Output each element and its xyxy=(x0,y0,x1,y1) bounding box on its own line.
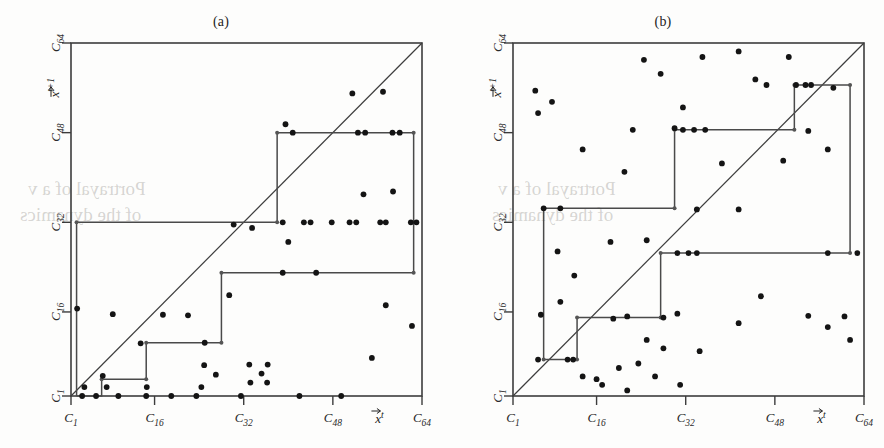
staircase-node xyxy=(659,251,663,255)
staircase-node xyxy=(144,377,148,381)
data-point xyxy=(752,77,758,83)
data-point xyxy=(226,292,232,298)
data-point xyxy=(238,393,244,399)
data-point xyxy=(736,207,742,213)
data-point xyxy=(805,128,811,134)
data-point xyxy=(185,312,191,318)
data-point xyxy=(557,205,563,211)
data-point xyxy=(383,219,389,225)
y-axis-tick-label: C64 xyxy=(490,34,508,52)
x-axis-tick-label: C1 xyxy=(64,410,77,428)
data-point xyxy=(213,372,219,378)
data-point xyxy=(570,357,576,363)
data-point xyxy=(641,57,647,63)
data-point xyxy=(414,219,420,225)
figure-container: Portrayal of a v of the dynamics Portray… xyxy=(0,0,884,448)
x-axis-tick-label: C64 xyxy=(855,410,873,428)
data-point xyxy=(780,158,786,164)
data-point xyxy=(355,130,361,136)
data-point xyxy=(580,147,586,153)
data-point xyxy=(680,105,686,111)
data-point xyxy=(674,311,680,317)
data-point xyxy=(624,387,630,393)
y-axis-title: xt+1 xyxy=(46,78,62,99)
data-point xyxy=(764,82,770,88)
data-point xyxy=(644,337,650,343)
data-point xyxy=(369,355,375,361)
staircase-cycle-path xyxy=(77,133,414,396)
y-axis-tick-label: C48 xyxy=(490,123,508,141)
staircase-node xyxy=(673,206,677,210)
data-point xyxy=(786,54,792,60)
data-point xyxy=(297,393,303,399)
data-point xyxy=(301,219,307,225)
data-point xyxy=(280,270,286,276)
data-point xyxy=(825,147,831,153)
data-point xyxy=(361,191,367,197)
data-point xyxy=(338,393,344,399)
data-point xyxy=(313,270,319,276)
data-point xyxy=(847,337,853,343)
data-point xyxy=(608,239,614,245)
data-point xyxy=(397,130,403,136)
data-point xyxy=(377,219,383,225)
panel-a-title: (a) xyxy=(0,14,442,30)
data-point xyxy=(81,384,87,390)
staircase-node xyxy=(412,271,416,275)
staircase-node xyxy=(792,128,796,132)
data-point xyxy=(104,384,110,390)
staircase-node xyxy=(412,131,416,135)
data-point xyxy=(691,127,697,133)
data-point xyxy=(265,362,271,368)
data-point xyxy=(349,91,355,97)
data-point xyxy=(652,373,658,379)
data-point xyxy=(854,250,860,256)
data-point xyxy=(549,99,555,105)
data-point xyxy=(672,125,678,131)
y-axis-tick-label: C48 xyxy=(48,123,66,141)
data-point xyxy=(825,250,831,256)
data-point xyxy=(390,189,396,195)
panel-a: (a) C1C16C32C48C64C1C16C32C48C64xtxt+1 xyxy=(0,0,442,448)
data-point xyxy=(110,311,116,317)
panel-b-title: (b) xyxy=(442,14,884,30)
x-axis-tick-label: C64 xyxy=(413,410,431,428)
data-point xyxy=(557,299,563,305)
data-point xyxy=(555,249,561,255)
staircase-node xyxy=(75,220,79,224)
x-axis-tick-label: C1 xyxy=(506,410,519,428)
x-axis-tick-label: C48 xyxy=(324,410,342,428)
data-point xyxy=(719,161,725,167)
y-axis-tick-label: C16 xyxy=(490,303,508,321)
data-point xyxy=(599,382,605,388)
data-point xyxy=(74,306,80,312)
data-point xyxy=(280,219,286,225)
data-point xyxy=(677,382,683,388)
data-point xyxy=(624,314,630,320)
data-point xyxy=(616,365,622,371)
data-point xyxy=(686,250,692,256)
data-point xyxy=(644,237,650,243)
data-point xyxy=(144,384,150,390)
data-point xyxy=(535,110,541,116)
data-point xyxy=(390,130,396,136)
data-point xyxy=(842,314,848,320)
data-point xyxy=(680,127,686,133)
data-point xyxy=(329,219,335,225)
data-point xyxy=(100,373,106,379)
data-point xyxy=(362,130,368,136)
data-point xyxy=(535,357,541,363)
data-point xyxy=(290,130,296,136)
data-point xyxy=(202,340,208,346)
panel-b-plot: C1C16C32C48C64C1C16C32C48C64xtxt+1 xyxy=(442,0,884,448)
data-point xyxy=(622,169,628,175)
data-point xyxy=(694,207,700,213)
data-point xyxy=(538,312,544,318)
y-axis-tick-label: C32 xyxy=(48,213,66,231)
data-point xyxy=(380,89,386,95)
data-point xyxy=(697,348,703,354)
data-point xyxy=(594,376,600,382)
data-point xyxy=(630,127,636,133)
data-point xyxy=(138,340,144,346)
x-axis-tick-label: C48 xyxy=(766,410,784,428)
